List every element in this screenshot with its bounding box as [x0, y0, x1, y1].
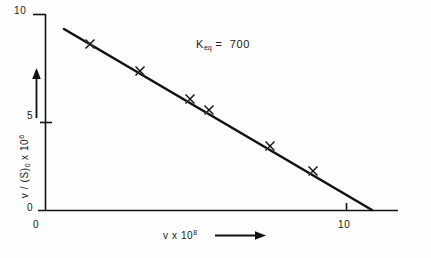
x-axis-title-exponent: 8: [193, 229, 197, 236]
annotation-keq: Keq = 700: [196, 38, 250, 51]
y-axis-title-subscript: 0: [24, 163, 31, 167]
y-axis-arrow-icon: [32, 68, 41, 118]
keq-symbol: K: [196, 38, 204, 50]
y-axis-title: v / (S)0 x 106: [18, 122, 31, 212]
y-axis-tick-label-5: 5: [27, 110, 33, 121]
y-axis-title-base: v / (S): [19, 167, 30, 198]
chart-figure: 10 5 0 0 10 v x 108 v / (S)0 x 106 Keq =…: [0, 0, 431, 258]
x-axis-arrow-icon: [215, 231, 266, 240]
y-axis-tick-label-10: 10: [14, 5, 26, 16]
keq-value: 700: [230, 38, 250, 50]
x-axis-tick-label-0: 0: [33, 219, 39, 230]
keq-subscript: eq: [204, 44, 212, 51]
keq-operator: =: [215, 38, 222, 50]
data-point-marker-ink: [86, 40, 318, 176]
y-axis-title-exponent: 6: [18, 135, 25, 139]
fit-line: [64, 29, 372, 210]
x-axis-title-base: v x 10: [163, 230, 193, 241]
y-axis-title-mid: x 10: [19, 139, 30, 164]
x-axis-title: v x 108: [163, 229, 197, 241]
x-axis-tick-label-10: 10: [338, 219, 350, 230]
